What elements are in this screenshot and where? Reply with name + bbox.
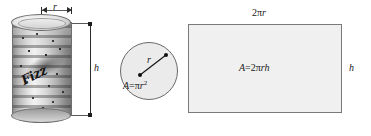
height-endcap-bottom: [88, 113, 92, 117]
circle-edge-dot: [164, 53, 168, 57]
rectangle-group: 2πr A=2πrh h: [186, 0, 371, 136]
rectangle-area-rh: rh: [261, 62, 270, 73]
circle-radius-label: r: [147, 55, 151, 65]
circle-area-exponent: 2: [144, 79, 148, 87]
can-bottom-ellipse: [11, 108, 71, 123]
circle-radius-arrow-icon: [116, 38, 186, 108]
circle-area-formula: A=πr2: [123, 80, 147, 91]
height-dimension-line: [90, 23, 91, 115]
circle-group: r A=πr2: [116, 38, 186, 108]
radius-arrow-left-icon: [42, 7, 47, 13]
radius-extension-left: [41, 7, 42, 14]
rectangle-width-r: r: [262, 7, 266, 18]
rectangle-area-formula: A=2πrh: [239, 63, 270, 73]
circle-center-dot: [138, 73, 142, 77]
cylinder-height-label: h: [94, 63, 99, 73]
cylinder-radius-label: r: [53, 2, 57, 12]
cylinder-surface-area-figure: r Fizz h r A=πr2: [0, 0, 371, 136]
radius-extension-right: [71, 7, 72, 14]
rectangle-height-label: h: [349, 63, 354, 73]
cylinder-group: r Fizz h: [0, 0, 110, 136]
can-top-inner-ellipse: [18, 18, 66, 29]
rectangle-width-label: 2πr: [252, 8, 266, 18]
can-body: Fizz: [12, 22, 72, 116]
can-top-ellipse: [11, 14, 71, 31]
height-endcap-top: [88, 22, 92, 26]
